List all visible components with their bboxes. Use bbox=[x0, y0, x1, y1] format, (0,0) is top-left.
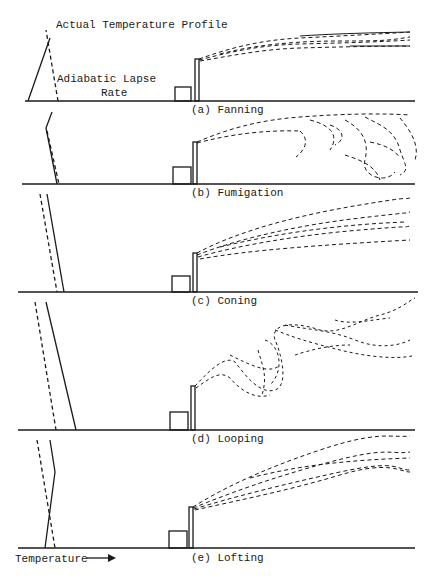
panel-label-fanning: (a) Fanning bbox=[191, 104, 264, 116]
actual-profile-line bbox=[47, 194, 64, 292]
smokestack bbox=[191, 386, 195, 430]
panel-label-coning: (c) Coning bbox=[191, 295, 257, 307]
panel-label-lofting: (e) Lofting bbox=[191, 552, 264, 564]
building bbox=[170, 412, 188, 430]
actual-profile-line bbox=[28, 38, 50, 101]
building bbox=[172, 276, 190, 292]
legend-adiabatic-lapse-rate-line2: Rate bbox=[101, 87, 127, 99]
building bbox=[169, 531, 187, 548]
smokestack bbox=[193, 142, 197, 184]
panel-label-fumigation: (b) Fumigation bbox=[191, 187, 283, 199]
legend-adiabatic-lapse-rate: Adiabatic Lapse bbox=[57, 73, 156, 85]
panel-fumigation bbox=[22, 112, 416, 184]
building bbox=[175, 87, 191, 101]
arrow-head-icon bbox=[108, 554, 116, 562]
panel-label-looping: (d) Looping bbox=[191, 433, 264, 445]
actual-profile-line bbox=[45, 440, 55, 548]
panel-looping bbox=[18, 298, 415, 430]
adiabatic-line bbox=[47, 131, 59, 184]
plume-diagram bbox=[0, 0, 434, 587]
actual-profile-line bbox=[46, 302, 76, 430]
legend-actual-temperature-profile: Actual Temperature Profile bbox=[56, 19, 228, 31]
building bbox=[173, 167, 191, 184]
adiabatic-line bbox=[46, 30, 58, 101]
panel-fanning bbox=[25, 30, 415, 101]
panel-coning bbox=[18, 194, 418, 292]
panel-lofting bbox=[18, 436, 415, 548]
x-axis-label-temperature: Temperature bbox=[15, 553, 88, 565]
adiabatic-line bbox=[40, 194, 57, 292]
smokestack bbox=[195, 59, 199, 101]
smokestack bbox=[189, 507, 193, 548]
smokestack bbox=[193, 253, 197, 292]
adiabatic-line bbox=[35, 302, 56, 430]
